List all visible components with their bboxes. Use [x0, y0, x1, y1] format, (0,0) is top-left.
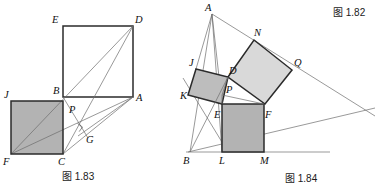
caption-fig-1-83: 图 1.83 — [62, 171, 95, 182]
label-A-fig184: A — [204, 2, 212, 13]
label-N-fig184: N — [253, 27, 262, 38]
segment-A-G — [78, 97, 133, 136]
label-G-fig183: G — [86, 134, 94, 145]
label-L-fig184: L — [218, 155, 225, 166]
square-ELMF-fill — [222, 104, 264, 152]
label-C-fig183: C — [58, 156, 66, 167]
geometry-canvas: A B C D E F G J P 图 1.83 A B — [0, 0, 375, 186]
label-B-fig184: B — [183, 155, 190, 166]
label-E-fig183: E — [51, 14, 59, 25]
segment-C-D — [63, 26, 133, 154]
square-DNQF-fill — [228, 40, 292, 104]
label-M-fig184: M — [259, 155, 270, 166]
label-E-fig184: E — [213, 109, 221, 120]
label-K-fig184: K — [179, 90, 188, 101]
label-D-fig184: D — [228, 65, 237, 76]
figure-1-83: A B C D E F G J P 图 1.83 — [2, 14, 143, 182]
label-P-fig184: P — [225, 84, 233, 95]
figure-1-84: A B D E F J K L M N P Q 图 1.84 — [179, 2, 375, 184]
label-A-fig183: A — [135, 92, 143, 103]
label-D-fig183: D — [134, 14, 143, 25]
corner-label-fig-1-82: 图 1.82 — [333, 7, 366, 18]
label-J-fig184: J — [189, 57, 195, 68]
label-J-fig183: J — [4, 89, 10, 100]
label-P-fig183: P — [68, 104, 76, 115]
label-F-fig184: F — [264, 109, 272, 120]
segment-J-A — [196, 14, 212, 69]
segment-F-D — [11, 26, 133, 154]
figure-sheet: A B C D E F G J P 图 1.83 A B — [0, 0, 375, 186]
label-F-fig183: F — [2, 156, 10, 167]
label-Q-fig184: Q — [294, 57, 302, 68]
caption-fig-1-84: 图 1.84 — [285, 173, 318, 184]
label-B-fig183: B — [53, 85, 60, 96]
